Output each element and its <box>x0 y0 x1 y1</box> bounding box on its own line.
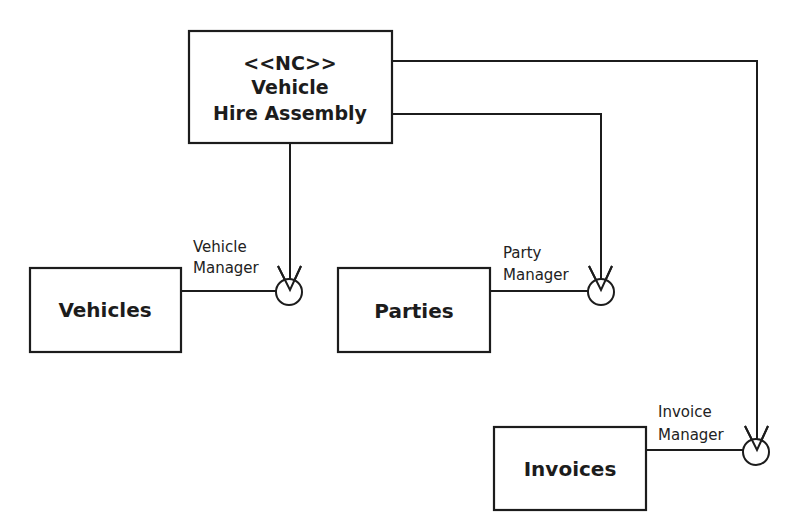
invoices-component: Invoices Invoice Manager <box>494 403 769 510</box>
invoice-manager-label-line1: Invoice <box>658 403 712 421</box>
parties-label: Parties <box>374 299 453 323</box>
dependency-line <box>392 114 601 289</box>
invoice-manager-label-line2: Manager <box>658 426 725 444</box>
provided-interface-lollipop-icon <box>276 279 302 305</box>
invoices-label: Invoices <box>524 457 617 481</box>
dependency-party-manager <box>392 114 612 290</box>
assembly-name-line1: Vehicle <box>251 76 328 98</box>
vehicles-component: Vehicles Vehicle Manager <box>30 238 302 352</box>
vehicle-manager-label-line1: Vehicle <box>193 238 247 256</box>
dependency-line <box>392 61 757 449</box>
party-manager-label-line2: Manager <box>503 266 570 284</box>
party-manager-label-line1: Party <box>503 244 542 262</box>
component-diagram: <<NC>> Vehicle Hire Assembly Vehicles Ve… <box>0 0 796 531</box>
provided-interface-lollipop-icon <box>743 439 769 465</box>
vehicles-label: Vehicles <box>58 298 151 322</box>
assembly-name-line2: Hire Assembly <box>213 102 367 124</box>
vehicle-manager-label-line2: Manager <box>193 259 260 277</box>
vehicle-hire-assembly-component: <<NC>> Vehicle Hire Assembly <box>189 31 392 143</box>
dependency-vehicle-manager <box>278 143 301 290</box>
dependency-invoice-manager <box>392 61 768 450</box>
assembly-stereotype: <<NC>> <box>243 52 337 74</box>
parties-component: Parties Party Manager <box>338 244 614 352</box>
